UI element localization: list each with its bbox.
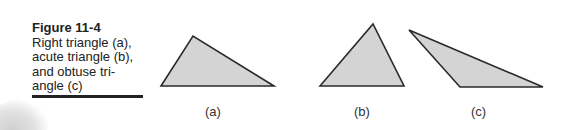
right-triangle — [161, 36, 274, 86]
acute-triangle — [320, 24, 404, 86]
label-c: (c) — [471, 104, 486, 119]
label-b: (b) — [354, 104, 370, 119]
label-a: (a) — [205, 104, 221, 119]
obtuse-triangle — [409, 30, 543, 87]
triangles-figure — [0, 0, 573, 130]
